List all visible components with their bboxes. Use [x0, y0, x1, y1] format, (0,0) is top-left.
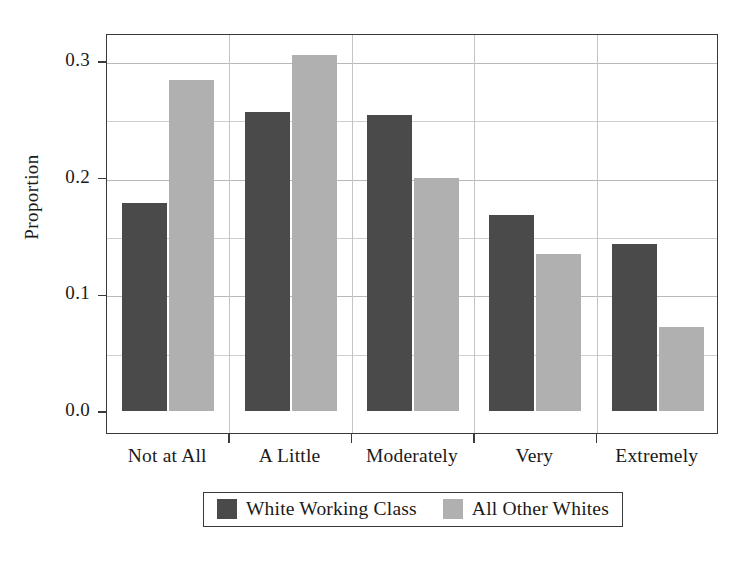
x-axis-tick-label: Moderately — [351, 445, 473, 467]
legend-entry: White Working Class — [217, 498, 417, 520]
y-axis-tick-label: 0.1 — [65, 282, 90, 304]
x-axis-tick-label: Extremely — [596, 445, 718, 467]
legend-label: All Other Whites — [472, 498, 609, 520]
legend-entry: All Other Whites — [443, 498, 609, 520]
x-axis-tick — [351, 434, 352, 443]
legend-swatch-icon — [443, 499, 463, 519]
y-axis-tick-label: 0.0 — [65, 399, 90, 421]
y-axis-tick-label: 0.3 — [65, 49, 90, 71]
x-axis-tick — [228, 434, 229, 443]
x-axis-tick — [473, 434, 474, 443]
legend-label: White Working Class — [246, 498, 417, 520]
legend-swatch-icon — [217, 499, 237, 519]
x-axis-tick-label: Not at All — [106, 445, 228, 467]
chart-figure: Proportion Not at AllA LittleModeratelyV… — [0, 0, 745, 561]
x-axis-tick — [596, 434, 597, 443]
y-axis-tick — [98, 178, 107, 180]
x-axis-tick-label: Very — [473, 445, 595, 467]
y-axis-tick — [98, 61, 107, 63]
y-axis-tick — [98, 411, 107, 413]
y-axis-tick — [98, 295, 107, 297]
chart-legend: White Working ClassAll Other Whites — [203, 492, 623, 527]
axis-ticks-layer: Not at AllA LittleModeratelyVeryExtremel… — [0, 0, 745, 561]
y-axis-tick-label: 0.2 — [65, 166, 90, 188]
x-axis-tick-label: A Little — [228, 445, 350, 467]
